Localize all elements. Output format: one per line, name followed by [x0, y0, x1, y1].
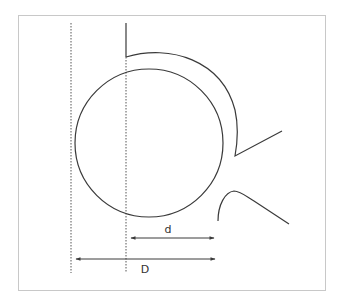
inner-circle	[75, 69, 223, 217]
outer-arc	[126, 53, 282, 156]
lower-lip-curve	[218, 191, 289, 224]
diagram-canvas: d D	[0, 0, 342, 303]
figure-border	[19, 16, 326, 291]
dimension-label-D: D	[141, 263, 149, 276]
dimension-label-d: d	[165, 223, 172, 236]
diagram-frame: d D	[0, 0, 342, 303]
